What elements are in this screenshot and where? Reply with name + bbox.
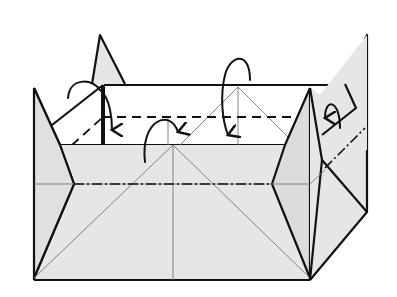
origami-diagram [0, 0, 397, 297]
right-side-wall [310, 35, 367, 280]
back-left-flap [92, 35, 125, 84]
